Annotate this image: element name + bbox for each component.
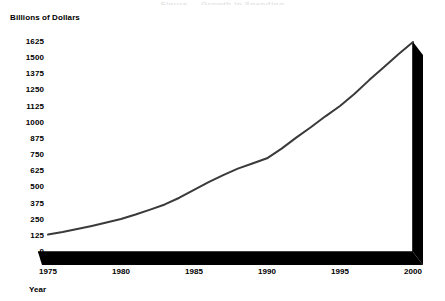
right-axis-3d-face — [413, 42, 423, 265]
data-series-line — [48, 42, 413, 235]
x-tick-label: 1985 — [171, 268, 217, 276]
bottom-axis-3d-face — [38, 252, 423, 265]
x-axis-title: Year — [29, 285, 46, 294]
chart-screenshot: Figure — Growth in Spending Billions of … — [0, 0, 445, 301]
x-tick-label: 1980 — [98, 268, 144, 276]
chart-plot-area — [0, 0, 445, 301]
x-tick-label: 1995 — [317, 268, 363, 276]
x-axis-tick-labels: 197519801985199019952000 — [0, 268, 445, 280]
x-tick-label: 2000 — [390, 268, 436, 276]
x-tick-label: 1990 — [244, 268, 290, 276]
x-tick-label: 1975 — [25, 268, 71, 276]
